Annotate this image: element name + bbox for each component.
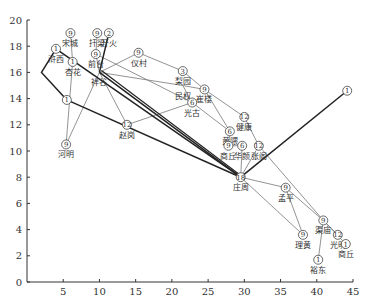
node-number: 9 [301,231,305,239]
node-label: 民权 [175,91,191,101]
node-number: 6 [228,128,233,136]
node-label: 杏花 [65,67,81,77]
node-label: 宋城 [62,38,78,48]
node-liangying: 9理黄 [295,230,311,250]
y-tick-label: 0 [16,277,22,288]
x-tick-label: 40 [310,286,323,297]
node-label: 开火 [101,39,117,48]
nodes: 9宋城9扦梁2开火1浒西9前台9仪村1杏花祥谷3梨园民权9崔楼6光古12赵岗11… [48,29,354,275]
x-tick-label: 25 [202,286,215,297]
x-tick-label: 45 [347,286,360,297]
node-heming: 9河明 [58,140,74,160]
node-number: 12 [333,231,342,239]
node-number: 9 [226,142,230,150]
node-number: 9 [95,30,99,38]
node-number: 2 [107,30,111,38]
node-number: 9 [283,184,287,192]
node-label: 张阁 [251,151,267,161]
node-zhuangzhou: 18庄周 [233,173,249,193]
node-number: 6 [240,142,245,150]
node-label: 健康 [236,122,252,132]
node-number: 1 [344,241,348,249]
node-lianmiao: 9渠庙 [315,216,331,236]
node-label: 庄周 [233,182,249,192]
y-tick-label: 16 [9,67,22,78]
node-label: 商丘 [220,151,236,161]
node-junction14: 1 [62,95,71,104]
y-tick-label: 6 [16,198,22,209]
y-tick-label: 20 [9,15,22,26]
node-songcheng: 9宋城 [62,29,78,49]
node-yicun: 9仪村 [131,48,147,68]
node-label: 祥谷 [91,77,107,87]
x-tick-label: 20 [166,286,179,297]
node-label: 光古 [184,108,200,118]
node-number: 12 [123,121,132,129]
node-number: 1 [345,87,349,95]
x-tick-label: 5 [60,286,66,297]
node-number: 3 [181,68,185,76]
node-number: 9 [64,141,68,149]
node-label: 商丘 [338,249,354,259]
main-edge [67,100,241,177]
node-number: 12 [240,113,249,121]
node-label: 孟平 [278,193,294,203]
node-minquan: 民权 [175,91,191,101]
node-number: 9 [202,86,206,94]
node-number: 1 [70,58,74,66]
node-number: 9 [94,51,98,59]
node-label: 裕东 [310,265,326,275]
node-label: 渠庙 [315,225,331,235]
node-number: 18 [236,174,245,182]
node-number: 6 [190,99,195,107]
node-number: 1 [65,96,69,104]
y-tick-label: 10 [9,146,22,157]
node-east1: 1 [343,86,352,95]
node-qiantai: 9前台 [88,50,104,69]
node-kaihuo: 2开火 [101,29,117,49]
node-label: 河明 [58,149,74,159]
node-number: 9 [136,49,140,57]
x-tick-label: 10 [93,286,106,297]
node-number: 1 [316,256,320,264]
node-number: 1 [54,45,58,53]
y-tick-label: 8 [16,172,22,183]
node-zhanglou: 12张阁 [251,141,267,161]
node-label: 前台 [88,59,104,69]
node-number: 9 [68,30,72,38]
node-label: 梨园 [175,76,191,86]
main-edge [241,91,347,177]
network-diagram: 0246810121416182051015202530354045 9宋城9扦… [0,0,377,308]
edge [259,146,323,221]
y-tick-label: 14 [9,93,22,104]
main-edge [99,72,240,177]
node-cuilou: 9崔楼 [196,85,212,105]
y-tick-label: 12 [9,119,22,130]
node-number: 12 [254,142,263,150]
x-tick-label: 35 [274,286,287,297]
node-label: 理黄 [295,240,311,250]
node-jiankang: 12健康 [236,112,252,132]
node-label: 华颜 [234,151,250,161]
node-liyuan: 3梨园 [175,67,191,87]
node-label: 仪村 [131,58,147,68]
node-lishi: 祥谷 [91,77,107,87]
node-number: 9 [321,217,325,225]
y-tick-label: 18 [9,41,22,52]
x-tick-label: 15 [129,286,142,297]
node-label: 浒西 [48,54,64,64]
node-label: 赵岗 [119,130,135,140]
y-tick-label: 2 [16,250,22,261]
node-yudong: 1裕东 [310,255,326,275]
node-label: 崔楼 [196,94,212,104]
thin-edges [66,33,346,260]
y-tick-label: 4 [16,224,22,235]
x-tick-label: 30 [238,286,251,297]
main-edge [56,49,241,177]
node-xinghua: 1杏花 [65,57,81,77]
